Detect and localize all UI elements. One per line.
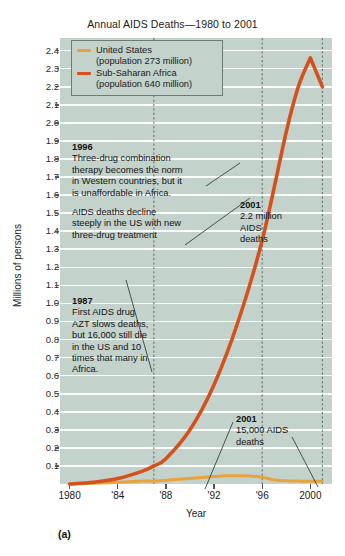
annotation-2001-africa-year: 2001 <box>240 200 282 211</box>
legend-swatch-sub-saharan-africa <box>77 72 91 75</box>
y-tick-label: 0.4 <box>19 407 59 417</box>
y-tick-label: 0.5 <box>19 389 59 399</box>
annotation-2001-us-line-1: 15,000 AIDS <box>236 425 288 436</box>
aids-deaths-figure: Annual AIDS Deaths—1980 to 2001 Millions… <box>0 0 345 556</box>
annotation-1987-line-2: AZT slows deaths, <box>72 319 148 330</box>
annotation-1996-line-3: in Western countries, but it <box>72 176 183 187</box>
y-tick-mark <box>55 357 59 358</box>
y-tick-label: 1.2 <box>19 262 59 272</box>
annotation-us-decline-line-1: AIDS deaths decline <box>72 207 181 218</box>
y-tick-mark <box>55 50 59 51</box>
legend-swatch-united-states <box>77 49 91 52</box>
annotation-1987-line-3: but 16,000 still die <box>72 330 148 341</box>
x-tick-label: 1980 <box>45 490 95 501</box>
annotation-2001-us-line-2: deaths <box>236 437 288 448</box>
chart-title: Annual AIDS Deaths—1980 to 2001 <box>0 18 345 30</box>
annotation-us-decline: AIDS deaths decline steeply in the US wi… <box>72 207 181 241</box>
gridline <box>60 267 332 269</box>
y-tick-mark <box>55 104 59 105</box>
chart-legend: United States (population 273 million) S… <box>71 40 223 96</box>
y-tick-label: 0.8 <box>19 335 59 345</box>
y-tick-label: 0.6 <box>19 371 59 381</box>
y-tick-mark <box>55 86 59 87</box>
y-tick-label: 1.9 <box>19 136 59 146</box>
gridline <box>60 447 332 449</box>
annotation-2001-africa: 2001 2.2 million AIDS deaths <box>240 200 282 246</box>
y-tick-mark <box>55 393 59 394</box>
y-tick-label: 2.1 <box>19 100 59 110</box>
x-tick-label: '84 <box>93 490 143 501</box>
y-tick-mark <box>55 140 59 141</box>
panel-letter: (a) <box>58 528 71 540</box>
y-tick-mark <box>55 194 59 195</box>
y-tick-label: 1.0 <box>19 298 59 308</box>
x-tick-label: 2000 <box>285 490 335 501</box>
y-tick-label: 1.6 <box>19 190 59 200</box>
y-tick-label: 2.4 <box>19 46 59 56</box>
annotation-1996-year: 1996 <box>72 142 183 153</box>
annotation-1987-line-1: First AIDS drug <box>72 307 148 318</box>
x-tick-mark <box>117 484 118 489</box>
x-tick-label: '92 <box>189 490 239 501</box>
x-tick-mark <box>213 484 214 489</box>
y-tick-label: 0.1 <box>19 461 59 471</box>
annotation-1987-year: 1987 <box>72 296 148 307</box>
gridline <box>60 285 332 287</box>
gridline <box>60 122 332 124</box>
y-tick-mark <box>55 411 59 412</box>
x-tick-mark <box>165 484 166 489</box>
annotation-1987: 1987 First AIDS drug AZT slows deaths, b… <box>72 296 148 376</box>
x-axis-label: Year <box>60 508 332 519</box>
annotation-us-decline-line-3: three-drug treatment <box>72 230 181 241</box>
x-tick-label: '96 <box>237 490 287 501</box>
x-tick-mark <box>69 484 70 489</box>
annotation-1996-line-2: therapy becomes the norm <box>72 165 183 176</box>
y-tick-label: 1.7 <box>19 172 59 182</box>
legend-item-united-states: United States <box>77 45 217 56</box>
gridline <box>60 248 332 250</box>
y-tick-label: 0.9 <box>19 316 59 326</box>
legend-subtext-sub-saharan-africa: (population 640 million) <box>96 79 217 91</box>
annotation-2001-us-year: 2001 <box>236 414 288 425</box>
annotation-1996: 1996 Three-drug combination therapy beco… <box>72 142 183 199</box>
y-tick-mark <box>55 285 59 286</box>
y-tick-label: 1.1 <box>19 280 59 290</box>
annotation-1996-line-4: is unaffordable in Africa. <box>72 188 183 199</box>
annotation-2001-africa-line-1: 2.2 million <box>240 211 282 222</box>
y-tick-label: 2.3 <box>19 64 59 74</box>
x-tick-label: '88 <box>141 490 191 501</box>
x-tick-mark <box>310 484 311 489</box>
legend-subtext-united-states: (population 273 million) <box>96 56 217 68</box>
y-tick-label: 1.3 <box>19 244 59 254</box>
y-tick-label: 0.7 <box>19 353 59 363</box>
gridline <box>60 429 332 431</box>
y-tick-mark <box>55 213 59 214</box>
annotation-1987-line-5: times that many in <box>72 353 148 364</box>
gridline <box>60 104 332 106</box>
y-tick-label: 1.8 <box>19 154 59 164</box>
legend-item-sub-saharan-africa: Sub-Saharan Africa <box>77 68 217 79</box>
annotation-us-decline-line-2: steeply in the US with new <box>72 218 181 229</box>
annotation-1987-line-4: in the US and 10 <box>72 342 148 353</box>
y-tick-label: 2.0 <box>19 118 59 128</box>
gridline <box>60 411 332 413</box>
y-tick-label: 0.3 <box>19 425 59 435</box>
y-tick-label: 1.5 <box>19 208 59 218</box>
annotation-2001-africa-line-2: AIDS <box>240 223 282 234</box>
y-tick-mark <box>55 158 59 159</box>
y-tick-mark <box>55 303 59 304</box>
y-tick-mark <box>55 249 59 250</box>
y-tick-mark <box>55 267 59 268</box>
y-tick-mark <box>55 231 59 232</box>
y-tick-mark <box>55 429 59 430</box>
x-tick-mark <box>262 484 263 489</box>
annotation-1987-line-6: Africa. <box>72 364 148 375</box>
annotation-1996-line-1: Three-drug combination <box>72 153 183 164</box>
annotation-2001-africa-line-3: deaths <box>240 234 282 245</box>
y-tick-mark <box>55 447 59 448</box>
plot-area <box>60 38 332 484</box>
y-tick-mark <box>55 375 59 376</box>
y-tick-label: 1.4 <box>19 226 59 236</box>
y-tick-label: 2.2 <box>19 82 59 92</box>
y-tick-mark <box>55 176 59 177</box>
